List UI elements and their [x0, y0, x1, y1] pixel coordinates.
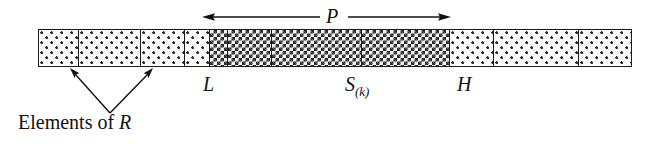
array-partition-figure: P L S(k) H Elements of R	[0, 0, 659, 146]
array-cell-5	[210, 30, 228, 66]
pivot-label-sk: S(k)	[345, 74, 369, 98]
array-cell-9	[450, 30, 495, 66]
array-cell-4	[185, 30, 211, 66]
array-cell-2	[79, 30, 141, 66]
array-bar	[38, 29, 632, 67]
array-cell-8	[362, 30, 450, 66]
boundary-label-l: L	[203, 74, 214, 94]
elements-of-r-caption-symbol: R	[119, 111, 131, 133]
array-cell-1	[39, 30, 79, 66]
array-cell-11	[579, 30, 631, 66]
leader-arrow-left	[70, 68, 110, 113]
p-span-arrow-right-segment	[348, 13, 451, 21]
leader-arrow-right	[110, 68, 153, 113]
pivot-label-sk-base: S	[345, 73, 355, 95]
array-cell-10	[494, 30, 579, 66]
elements-of-r-caption: Elements of R	[18, 112, 131, 132]
boundary-label-h: H	[457, 74, 471, 94]
array-cell-6	[228, 30, 272, 66]
elements-of-r-caption-prefix: Elements of	[18, 111, 119, 133]
span-label-p: P	[326, 6, 338, 26]
array-cell-7	[272, 30, 362, 66]
array-cell-3	[141, 30, 185, 66]
p-span-arrow-left-segment	[202, 13, 320, 21]
pivot-label-sk-subscript: (k)	[355, 84, 369, 99]
